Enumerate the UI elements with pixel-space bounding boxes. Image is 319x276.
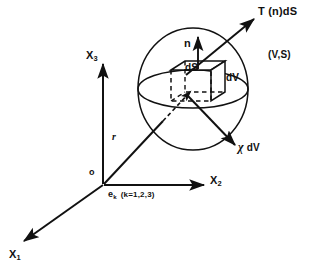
chi-symbol: χ xyxy=(238,140,244,154)
position-vector-arrow-icon xyxy=(104,91,191,184)
position-vector-label: r xyxy=(112,132,116,142)
axis-x1-label: X1 xyxy=(9,249,21,262)
diagram-canvas xyxy=(0,0,319,276)
basis-vector-range: (k=1,2,3) xyxy=(117,190,155,199)
axis-x1-letter: X xyxy=(9,248,17,260)
body-force-suffix: dV xyxy=(244,142,260,153)
axis-x2-subscript: 2 xyxy=(218,179,222,188)
traction-label: T (n)dS xyxy=(258,6,297,17)
axis-x3-letter: X xyxy=(86,49,94,61)
axis-x2-letter: X xyxy=(210,174,218,186)
body-force-label: χdV xyxy=(238,141,260,153)
axis-x1-subscript: 1 xyxy=(17,253,21,262)
volume-element-label: dV xyxy=(226,73,239,83)
body-region-label: (V,S) xyxy=(268,50,291,60)
axis-x3-subscript: 3 xyxy=(94,54,98,63)
basis-vector-label: ek(k=1,2,3) xyxy=(108,190,155,200)
continuum-mechanics-diagram: T (n)dS (V,S) n dS dV χdV X3 X2 X1 r o e… xyxy=(0,0,319,276)
origin-label: o xyxy=(89,168,95,177)
axis-x2-label: X2 xyxy=(210,175,222,188)
axis-x1-line xyxy=(24,185,103,241)
sphere-outline-icon xyxy=(138,28,248,150)
surface-element-label: dS xyxy=(185,63,198,73)
normal-vector-label: n xyxy=(184,38,191,49)
axis-x3-label: X3 xyxy=(86,50,98,63)
